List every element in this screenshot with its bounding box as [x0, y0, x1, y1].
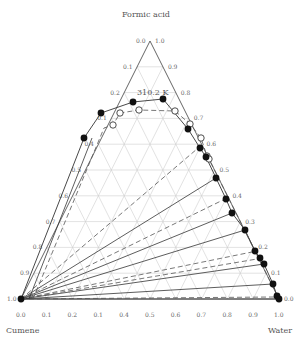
svg-text:0.3: 0.3	[245, 218, 255, 225]
svg-text:0.6: 0.6	[59, 192, 69, 199]
svg-text:0.9: 0.9	[20, 269, 30, 276]
svg-text:0.4: 0.4	[119, 311, 129, 318]
grid-lines	[34, 67, 266, 299]
svg-text:0.1: 0.1	[271, 269, 281, 276]
svg-text:0.9: 0.9	[168, 63, 178, 70]
temperature-annotation: 310.2 K	[137, 88, 169, 97]
data-points	[18, 96, 283, 303]
svg-text:0.0: 0.0	[136, 37, 146, 44]
svg-text:0.8: 0.8	[181, 89, 191, 96]
svg-text:0.2: 0.2	[258, 243, 268, 250]
svg-text:0.1: 0.1	[93, 311, 103, 318]
svg-text:0.5: 0.5	[145, 311, 155, 318]
svg-text:1.0: 1.0	[155, 37, 165, 44]
svg-text:0.6: 0.6	[207, 140, 217, 147]
svg-text:0.1: 0.1	[123, 63, 133, 70]
svg-text:0.1: 0.1	[42, 311, 52, 318]
svg-text:0.8: 0.8	[222, 311, 232, 318]
binodal-curves	[21, 99, 279, 299]
svg-text:0.9: 0.9	[248, 311, 258, 318]
svg-text:0.4: 0.4	[84, 140, 94, 147]
svg-text:0.0: 0.0	[16, 311, 26, 318]
axis-ticks: 0.01.00.00.10.90.10.20.80.20.10.70.10.40…	[7, 37, 294, 318]
ternary-diagram: 0.01.00.00.10.90.10.20.80.20.10.70.10.40…	[0, 0, 308, 344]
svg-text:0.7: 0.7	[194, 114, 204, 121]
svg-text:0.4: 0.4	[232, 192, 242, 199]
svg-text:0.0: 0.0	[284, 295, 294, 302]
svg-text:1.0: 1.0	[274, 311, 284, 318]
svg-text:0.2: 0.2	[110, 89, 120, 96]
svg-text:0.5: 0.5	[220, 166, 230, 173]
svg-text:1.0: 1.0	[7, 295, 17, 302]
svg-text:0.2: 0.2	[68, 311, 78, 318]
svg-text:0.7: 0.7	[197, 311, 207, 318]
svg-text:0.6: 0.6	[171, 311, 181, 318]
